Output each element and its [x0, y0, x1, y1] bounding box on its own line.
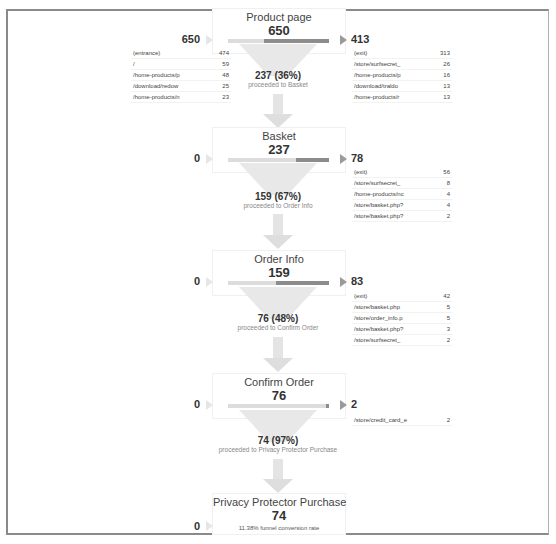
proceeded-label: proceeded to Order Info: [178, 202, 378, 209]
table-row[interactable]: (exit)42: [352, 291, 452, 302]
step-bar-fill: [296, 158, 329, 162]
down-arrow-icon: [263, 114, 293, 128]
funnel-conversion-rate: 11.38% funnel conversion rate: [213, 525, 345, 531]
entry-arrow-icon: [206, 277, 213, 287]
step-count: 74: [213, 509, 345, 523]
exit-arrow-icon: [340, 400, 347, 410]
down-arrow-icon: [263, 358, 293, 372]
table-row[interactable]: (exit)313: [352, 48, 452, 59]
step-count: 159: [213, 266, 345, 280]
step-bar: [228, 158, 329, 162]
step-bar-fill: [326, 404, 329, 408]
proceeded-info: 237 (36%) proceeded to Basket: [178, 70, 378, 88]
proceeded-label: proceeded to Confirm Order: [178, 324, 378, 331]
step-count: 76: [213, 389, 345, 403]
entries-count: 0: [140, 398, 200, 410]
table-row[interactable]: /home-products/r13: [352, 92, 452, 103]
proceeded-count: 76 (48%): [178, 313, 378, 324]
entry-arrow-icon: [206, 35, 213, 45]
proceeded-label: proceeded to Privacy Protector Purchase: [178, 446, 378, 453]
entries-count: 0: [140, 520, 200, 532]
table-row[interactable]: /store/surfsecret_8: [352, 178, 452, 189]
flow-arrow-shaft: [273, 337, 283, 360]
table-row[interactable]: /store/basket.php5: [352, 302, 452, 313]
proceeded-count: 74 (97%): [178, 435, 378, 446]
step-count: 237: [213, 143, 345, 157]
table-row[interactable]: /store/surfsecret_26: [352, 59, 452, 70]
step-bar: [228, 39, 329, 43]
proceeded-info: 76 (48%) proceeded to Confirm Order: [178, 313, 378, 331]
table-row[interactable]: (entrance)474: [131, 48, 231, 59]
entries-count: 650: [140, 33, 200, 45]
table-row[interactable]: /home-products/n23: [131, 92, 231, 103]
exit-arrow-icon: [340, 35, 347, 45]
down-arrow-icon: [263, 479, 293, 493]
proceeded-label: proceeded to Basket: [178, 81, 378, 88]
step-bar: [228, 281, 329, 285]
entry-arrow-icon: [206, 521, 213, 531]
down-arrow-icon: [263, 235, 293, 249]
entry-arrow-icon: [206, 154, 213, 164]
step-count: 650: [213, 24, 345, 38]
flow-arrow-shaft: [273, 94, 283, 116]
exits-count: 83: [351, 275, 363, 287]
exit-arrow-icon: [340, 154, 347, 164]
table-row[interactable]: /store/credit_card_e2: [352, 415, 452, 426]
table-row[interactable]: (exit)56: [352, 167, 452, 178]
step-bar-fill: [264, 39, 329, 43]
table-row[interactable]: /store/basket.php?2: [352, 211, 452, 222]
step-box[interactable]: Privacy Protector Purchase 74 11.38% fun…: [212, 493, 346, 535]
step-bar: [228, 404, 329, 408]
flow-arrow-shaft: [273, 214, 283, 237]
entries-count: 0: [140, 275, 200, 287]
proceeded-info: 159 (67%) proceeded to Order Info: [178, 191, 378, 209]
table-row[interactable]: /store/surfsecret_2: [352, 335, 452, 346]
exits-count: 2: [351, 398, 357, 410]
step-bar-fill: [276, 281, 329, 285]
table-row[interactable]: /59: [131, 59, 231, 70]
exit-destinations-table: /store/credit_card_e2: [352, 415, 452, 426]
flow-arrow-shaft: [273, 459, 283, 481]
exits-count: 413: [351, 33, 369, 45]
proceeded-info: 74 (97%) proceeded to Privacy Protector …: [178, 435, 378, 453]
proceeded-count: 237 (36%): [178, 70, 378, 81]
exit-arrow-icon: [340, 277, 347, 287]
entries-count: 0: [140, 152, 200, 164]
proceeded-count: 159 (67%): [178, 191, 378, 202]
entry-arrow-icon: [206, 400, 213, 410]
exits-count: 78: [351, 152, 363, 164]
